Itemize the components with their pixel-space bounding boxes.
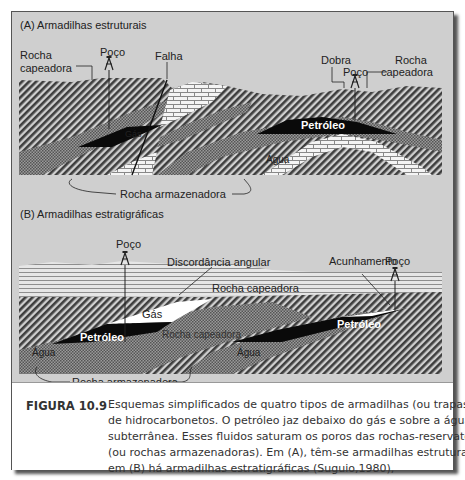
figure-caption: FIGURA 10.9 Esquemas simplificados de qu… (12, 382, 453, 470)
label-rocha-capeadora: Rocha capeadora (212, 282, 300, 294)
label-rocha-capeadora: Rocha (395, 54, 428, 66)
label-rocha-capeadora: capeadora (381, 66, 434, 78)
leader-line (69, 179, 116, 194)
leader-line (232, 179, 251, 194)
caption-line: subterrânea. Esses fluidos saturam os po… (108, 429, 448, 445)
leader-line (76, 66, 92, 80)
label-rocha-capeadora: Rocha capeadora (162, 329, 241, 340)
label-poco: Poço (116, 238, 141, 250)
label-dobra: Dobra (321, 54, 352, 66)
label-poco: Poço (100, 46, 125, 58)
label-falha: Falha (155, 50, 183, 62)
caption-line: (ou rochas armazenadoras). Em (A), têm-s… (108, 445, 448, 461)
label-petroleo: Petróleo (301, 119, 345, 131)
label-agua: Água (266, 153, 290, 165)
caption-line: em (B) há armadilhas estratigráficas (Su… (108, 461, 448, 477)
label-gas: Gás (142, 308, 163, 320)
caption-text: Esquemas simplificados de quatro tipos d… (108, 397, 448, 477)
label-discordancia-angular: Discordância angular (167, 256, 271, 268)
label-rocha-armazenadora: Rocha armazenadora (120, 188, 227, 200)
trap-diagrams: (A) Armadilhas estruturais (12, 12, 453, 382)
label-agua: Água (237, 346, 261, 358)
panel-b-title: (B) Armadilhas estratigráficas (20, 208, 164, 220)
figure-number: FIGURA 10.9 (26, 399, 107, 413)
panel-a-title: (A) Armadilhas estruturais (20, 19, 147, 31)
oil-derrick-icon (105, 56, 113, 70)
figure-frame: (A) Armadilhas estruturais (11, 11, 454, 470)
label-poco: Poço (343, 66, 368, 78)
figure-illustration: (A) Armadilhas estruturais (12, 12, 453, 382)
label-gas: Gás (125, 129, 142, 139)
label-poco: Poço (385, 255, 410, 267)
caption-line: Esquemas simplificados de quatro tipos d… (108, 397, 448, 413)
label-rocha-capeadora: capeadora (20, 62, 73, 74)
label-petroleo: Petróleo (337, 318, 381, 330)
label-rocha-capeadora: Rocha (20, 49, 53, 61)
label-petroleo: Petróleo (80, 331, 124, 343)
caption-line: de hidrocarbonetos. O petróleo jaz debai… (108, 413, 448, 429)
label-agua: Água (32, 346, 56, 358)
